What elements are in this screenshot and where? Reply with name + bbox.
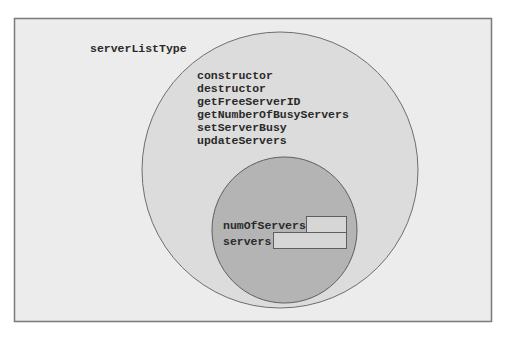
- member-variable-box: [274, 233, 347, 249]
- member-function: updateServers: [197, 134, 287, 147]
- class-name-label: serverListType: [90, 42, 187, 55]
- member-variable-box: [307, 217, 347, 233]
- member-function: getNumberOfBusyServers: [197, 108, 349, 121]
- member-variable-label: numOfServers: [223, 219, 306, 232]
- member-variable-label: servers: [223, 235, 271, 248]
- class-diagram: serverListType constructor destructor ge…: [0, 0, 511, 337]
- member-function: setServerBusy: [197, 121, 287, 134]
- member-function: getFreeServerID: [197, 95, 301, 108]
- member-function: constructor: [197, 69, 273, 82]
- member-function: destructor: [197, 82, 266, 95]
